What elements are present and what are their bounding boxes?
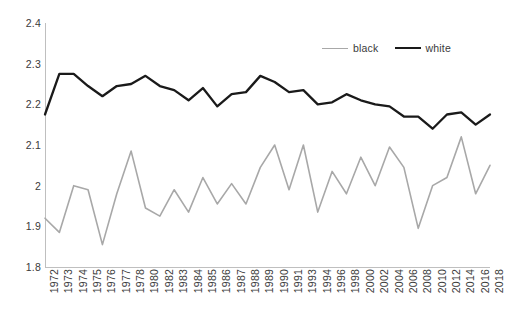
x-axis-tick-label: 2000 xyxy=(365,269,376,293)
x-axis-tick-label: 1978 xyxy=(135,269,146,293)
x-axis-tick-label: 1980 xyxy=(149,269,160,293)
x-axis-tick-label: 2008 xyxy=(422,269,433,293)
x-axis-tick-label: 2004 xyxy=(394,269,405,293)
series-line-black xyxy=(45,137,490,245)
x-axis-tick-label: 1983 xyxy=(178,269,189,293)
legend-item-white: white xyxy=(395,43,452,54)
x-axis-tick-labels: 1972197319741975197619771978198019821983… xyxy=(45,269,490,313)
x-axis-tick-label: 1990 xyxy=(279,269,290,293)
legend-swatch-white-icon xyxy=(395,47,421,49)
chart-legend: black white xyxy=(322,40,451,56)
x-axis-tick-label: 2018 xyxy=(494,269,505,293)
series-line-white xyxy=(45,74,490,129)
x-axis-tick-label: 1977 xyxy=(121,269,132,293)
x-axis-tick-label: 2010 xyxy=(437,269,448,293)
x-axis-tick-label: 1974 xyxy=(78,269,89,293)
x-axis-tick-label: 2012 xyxy=(451,269,462,293)
legend-swatch-black-icon xyxy=(322,48,348,49)
x-axis-tick-label: 1998 xyxy=(350,269,361,293)
x-axis-tick-label: 1984 xyxy=(193,269,204,293)
x-axis-tick-label: 1993 xyxy=(307,269,318,293)
x-axis-tick-label: 2006 xyxy=(408,269,419,293)
x-axis-tick-label: 1982 xyxy=(164,269,175,293)
x-axis-tick-label: 1972 xyxy=(49,269,60,293)
x-axis-tick-label: 1996 xyxy=(336,269,347,293)
x-axis-tick-label: 2002 xyxy=(379,269,390,293)
x-axis-tick-label: 1991 xyxy=(293,269,304,293)
x-axis-tick-label: 1994 xyxy=(322,269,333,293)
x-axis-tick-label: 1976 xyxy=(106,269,117,293)
x-axis-tick-label: 1975 xyxy=(92,269,103,293)
legend-item-black: black xyxy=(322,43,379,54)
x-axis-tick-label: 1987 xyxy=(236,269,247,293)
x-axis-tick-label: 1989 xyxy=(264,269,275,293)
x-axis-tick-label: 1986 xyxy=(221,269,232,293)
x-axis-tick-label: 2014 xyxy=(465,269,476,293)
legend-label-black: black xyxy=(353,43,379,54)
x-axis-tick-label: 2016 xyxy=(480,269,491,293)
legend-label-white: white xyxy=(426,43,452,54)
x-axis-tick-label: 1985 xyxy=(207,269,218,293)
x-axis-tick-label: 1973 xyxy=(63,269,74,293)
x-axis-tick-label: 1988 xyxy=(250,269,261,293)
